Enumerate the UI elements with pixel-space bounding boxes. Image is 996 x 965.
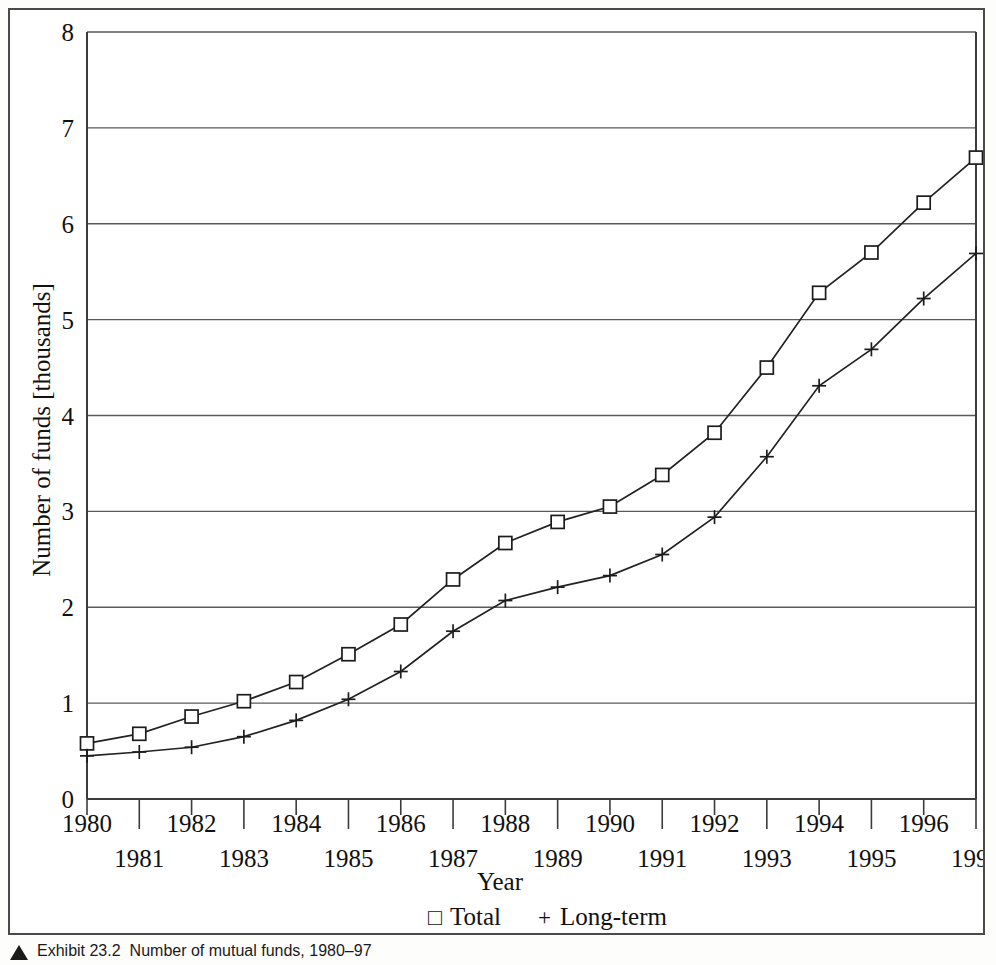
x-axis-tick-label: 1984 (271, 810, 322, 837)
y-axis-tick-label: 3 (62, 498, 75, 525)
legend-label: Long-term (560, 903, 667, 930)
data-point-marker (133, 727, 146, 740)
x-axis-tick-label: 1993 (742, 845, 792, 872)
data-series-group (80, 151, 983, 763)
x-axis-tick-label: 1991 (637, 845, 687, 872)
x-axis-tick-label: 1985 (323, 845, 373, 872)
data-point-marker (813, 286, 826, 299)
y-axis-tick-label: 6 (62, 211, 75, 238)
data-point-marker (394, 618, 407, 631)
x-axis-tick-label: 1992 (690, 810, 740, 837)
x-axis-tick-label: 1990 (585, 810, 635, 837)
y-axis-tick-label: 8 (62, 19, 75, 46)
legend-marker-plus-icon: + (538, 905, 551, 930)
figure-container: 012345678 198019811982198319841985198619… (0, 0, 996, 965)
y-axis-tick-label: 5 (62, 307, 75, 334)
figure-caption: Exhibit 23.2 Number of mutual funds, 198… (10, 942, 980, 965)
x-axis-tick-label: 1988 (480, 810, 530, 837)
y-axis-tick-label: 7 (62, 115, 75, 142)
x-axis-tick-label: 1987 (428, 845, 478, 872)
x-axis-tick-label: 1986 (376, 810, 426, 837)
data-point-marker (656, 468, 669, 481)
legend-marker-square-icon: □ (428, 905, 442, 930)
y-axis-tick-label: 2 (62, 594, 75, 621)
x-axis-tick-label: 1994 (794, 810, 845, 837)
x-axis-tick-label: 1997 (951, 845, 983, 872)
data-point-marker (551, 515, 564, 528)
x-axis-tick-label: 1981 (114, 845, 164, 872)
x-axis-tick-label: 1980 (62, 810, 112, 837)
data-point-marker (917, 196, 930, 209)
data-point-marker (237, 695, 250, 708)
x-axis-tick-label: 1983 (219, 845, 269, 872)
data-point-marker (708, 426, 721, 439)
data-point-marker (760, 361, 773, 374)
legend-label: Total (450, 903, 501, 930)
x-axis-title: Year (477, 868, 524, 895)
caption-text: Number of mutual funds, 1980–97 (130, 942, 372, 960)
line-chart: 012345678 198019811982198319841985198619… (10, 10, 983, 933)
x-axis-tick-label: 1989 (533, 845, 583, 872)
y-axis-title: Number of funds [thousands] (28, 283, 55, 577)
data-point-marker (970, 151, 983, 164)
caption-number: Exhibit 23.2 (37, 942, 121, 960)
x-axis-tick-label: 1996 (899, 810, 949, 837)
data-point-marker (185, 710, 198, 723)
data-point-marker (290, 676, 303, 689)
y-axis-tick-label: 1 (62, 690, 75, 717)
x-axis-tick-labels: 1980198119821983198419851986198719881989… (62, 810, 983, 872)
data-point-marker (499, 537, 512, 550)
data-series (80, 246, 983, 762)
series-line (87, 253, 976, 755)
data-point-marker (603, 500, 616, 513)
x-axis-tick-label: 1995 (846, 845, 896, 872)
data-point-marker (447, 573, 460, 586)
chart-legend: □Total+Long-term (428, 903, 667, 930)
y-axis-tick-label: 4 (62, 403, 75, 430)
y-axis-tick-labels: 012345678 (62, 19, 75, 813)
caption-triangle-icon (10, 945, 28, 960)
x-axis-tick-label: 1982 (167, 810, 217, 837)
data-point-marker (81, 737, 94, 750)
data-series (81, 151, 983, 750)
y-axis-tick-label: 0 (62, 786, 75, 813)
data-point-marker (342, 648, 355, 661)
figure-border: 012345678 198019811982198319841985198619… (8, 8, 985, 935)
grid-lines (87, 32, 976, 703)
data-point-marker (865, 246, 878, 259)
series-line (87, 158, 976, 744)
